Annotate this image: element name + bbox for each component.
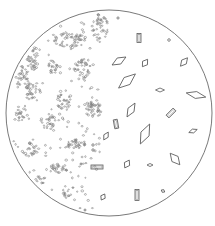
microscope-field-illustration bbox=[0, 0, 215, 226]
field-svg bbox=[0, 0, 215, 226]
background bbox=[0, 0, 215, 226]
